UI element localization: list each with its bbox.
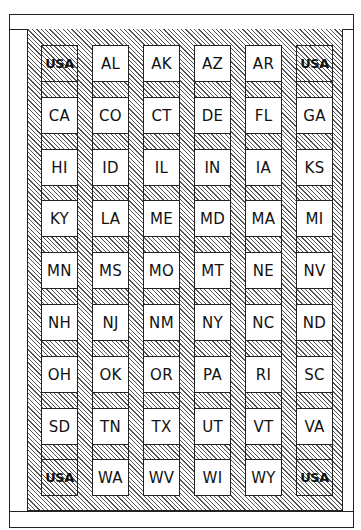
state-block: MA <box>245 200 282 237</box>
sashing-band <box>245 445 282 460</box>
sashing-band <box>41 341 78 356</box>
state-block: NY <box>194 304 231 341</box>
sashing-band <box>92 445 129 460</box>
sashing-band <box>296 341 333 356</box>
sashing-band <box>245 134 282 149</box>
sashing-band <box>296 186 333 201</box>
state-block: WV <box>143 459 180 496</box>
state-block: MT <box>194 252 231 289</box>
sashing-band <box>194 445 231 460</box>
state-block: MO <box>143 252 180 289</box>
sashing-band <box>92 82 129 97</box>
sashing-band <box>143 186 180 201</box>
sashing-band <box>245 393 282 408</box>
state-block: AZ <box>194 45 231 82</box>
sashing-band <box>143 237 180 252</box>
state-block: WY <box>245 459 282 496</box>
state-block: ME <box>143 200 180 237</box>
sashing-band <box>92 393 129 408</box>
sashing-band <box>296 82 333 97</box>
sashing-band <box>194 186 231 201</box>
state-block: TX <box>143 408 180 445</box>
state-block: DE <box>194 97 231 134</box>
sashing-band <box>296 237 333 252</box>
sashing-band <box>194 393 231 408</box>
state-block: AL <box>92 45 129 82</box>
state-block: VA <box>296 408 333 445</box>
sashing-band <box>92 237 129 252</box>
sashing-band <box>41 186 78 201</box>
state-block: RI <box>245 356 282 393</box>
sashing-band <box>245 186 282 201</box>
sashing-band <box>143 134 180 149</box>
state-block: IL <box>143 149 180 186</box>
state-block: IA <box>245 149 282 186</box>
state-block: CA <box>41 97 78 134</box>
right-border-divider <box>342 29 343 511</box>
state-block: HI <box>41 149 78 186</box>
bottom-strip-divider <box>9 511 354 512</box>
sashing-band <box>245 341 282 356</box>
sashing-band <box>194 341 231 356</box>
left-border-divider <box>27 29 28 511</box>
sashing-band <box>143 445 180 460</box>
sashing-band <box>92 341 129 356</box>
sashing-band <box>296 445 333 460</box>
corner-block-usa: USA <box>41 459 78 496</box>
state-block: OK <box>92 356 129 393</box>
sashing-band <box>41 82 78 97</box>
state-block: WI <box>194 459 231 496</box>
state-block: ID <box>92 149 129 186</box>
state-block: IN <box>194 149 231 186</box>
state-block: NE <box>245 252 282 289</box>
state-block: CT <box>143 97 180 134</box>
sashing-band <box>194 289 231 304</box>
sashing-band <box>194 237 231 252</box>
sashing-band <box>296 134 333 149</box>
state-block: KY <box>41 200 78 237</box>
state-block: KS <box>296 149 333 186</box>
sashing-band <box>41 134 78 149</box>
state-block: ND <box>296 304 333 341</box>
sashing-band <box>92 289 129 304</box>
state-block: CO <box>92 97 129 134</box>
corner-block-usa: USA <box>41 45 78 82</box>
state-block: OH <box>41 356 78 393</box>
state-block: NJ <box>92 304 129 341</box>
sashing-band <box>92 134 129 149</box>
state-block: NM <box>143 304 180 341</box>
state-block: NV <box>296 252 333 289</box>
state-block: WA <box>92 459 129 496</box>
state-block: SC <box>296 356 333 393</box>
state-block: AR <box>245 45 282 82</box>
state-block: LA <box>92 200 129 237</box>
sashing-band <box>41 445 78 460</box>
state-block: PA <box>194 356 231 393</box>
state-block: OR <box>143 356 180 393</box>
sashing-band <box>41 393 78 408</box>
state-block: MS <box>92 252 129 289</box>
sashing-band <box>296 393 333 408</box>
state-block: VT <box>245 408 282 445</box>
sashing-band <box>296 289 333 304</box>
sashing-band <box>41 289 78 304</box>
state-block: NH <box>41 304 78 341</box>
sashing-band <box>143 82 180 97</box>
sashing-band <box>143 289 180 304</box>
sashing-band <box>245 289 282 304</box>
state-block: MI <box>296 200 333 237</box>
state-block: AK <box>143 45 180 82</box>
sashing-band <box>143 393 180 408</box>
sashing-band <box>194 134 231 149</box>
sashing-band <box>41 237 78 252</box>
state-block: UT <box>194 408 231 445</box>
sashing-band <box>194 82 231 97</box>
state-block: NC <box>245 304 282 341</box>
sashing-band <box>143 341 180 356</box>
state-block: MN <box>41 252 78 289</box>
state-block: SD <box>41 408 78 445</box>
state-block: GA <box>296 97 333 134</box>
corner-block-usa: USA <box>296 459 333 496</box>
sashing-band <box>245 237 282 252</box>
sashing-band <box>245 82 282 97</box>
